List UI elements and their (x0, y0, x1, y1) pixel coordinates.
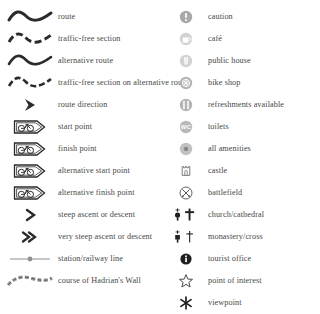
legend-label: castle (208, 166, 227, 176)
legend-item-traffic-free-section: traffic-free section (2, 28, 164, 50)
star-outline-icon (164, 270, 208, 292)
pint-glass-circle-icon (164, 50, 208, 72)
legend-item-point-of-interest: point of interest (164, 270, 318, 292)
cup-circle-icon (164, 28, 208, 50)
legend-label: alternative finish point (58, 188, 135, 198)
legend-item-viewpoint: viewpoint (164, 292, 318, 314)
legend-label: café (208, 34, 222, 44)
chevron-right-filled-icon (2, 94, 58, 116)
legend-label: station/railway line (58, 254, 123, 264)
legend-item-station-railway-line: station/railway line (2, 248, 164, 270)
wc-circle-icon: WC (164, 116, 208, 138)
legend-label: battlefield (208, 188, 242, 198)
legend-item-monastery-cross: monastery/cross (164, 226, 318, 248)
hadrians-wall-icon (2, 270, 58, 292)
legend-item-tourist-office: tourist office (164, 248, 318, 270)
legend-right-column: caution café public house (164, 6, 318, 279)
legend-item-finish-point: finish point (2, 138, 164, 160)
legend-label: public house (208, 56, 251, 66)
legend-label: alternative route (58, 56, 113, 66)
bike-wheel-circle-icon (164, 72, 208, 94)
legend-item-refreshments-available: refreshments available (164, 94, 318, 116)
legend-item-cafe: café (164, 28, 318, 50)
exclamation-circle-icon (164, 6, 208, 28)
wavy-line-dashed-thin-icon (2, 72, 58, 94)
legend-item-toilets: WC toilets (164, 116, 318, 138)
legend-item-steep-ascent-or-descent: steep ascent or descent (2, 204, 164, 226)
legend-label: refreshments available (208, 100, 284, 110)
church-cathedral-icon (164, 204, 208, 226)
castle-icon (164, 160, 208, 182)
legend-label: tourist office (208, 254, 251, 264)
legend-label: route direction (58, 100, 107, 110)
legend-item-church-cathedral: church/cathedral (164, 204, 318, 226)
legend-label: viewpoint (208, 298, 242, 308)
legend-label: monastery/cross (208, 232, 263, 242)
legend-label: start point (58, 122, 92, 132)
wavy-line-solid-icon (2, 6, 58, 28)
legend-item-course-of-hadrians-wall: course of Hadrian's Wall (2, 270, 164, 292)
legend-label: all amenities (208, 144, 251, 154)
legend-item-public-house: public house (164, 50, 318, 72)
legend-item-battlefield: battlefield (164, 182, 318, 204)
double-chevron-icon (2, 226, 58, 248)
legend-item-route: route (2, 6, 164, 28)
legend-label: very steep ascent or descent (58, 232, 152, 242)
monastery-cross-icon (164, 226, 208, 248)
wavy-line-solid-thin-icon (2, 50, 58, 72)
legend-label: bike shop (208, 78, 241, 88)
legend-label: alternative start point (58, 166, 130, 176)
legend-label: finish point (58, 144, 97, 154)
legend-item-bike-shop: bike shop (164, 72, 318, 94)
legend-label: course of Hadrian's Wall (58, 276, 141, 286)
railway-station-line-icon (2, 248, 58, 270)
legend-label: point of interest (208, 276, 262, 286)
legend-item-route-direction: route direction (2, 94, 164, 116)
legend-item-start-point: start point (2, 116, 164, 138)
legend-label: caution (208, 12, 233, 22)
legend-left-column: route traffic-free section alternative r… (2, 6, 164, 279)
legend-item-castle: castle (164, 160, 318, 182)
legend-label: route (58, 12, 75, 22)
svg-text:WC: WC (181, 123, 192, 130)
single-chevron-icon (2, 204, 58, 226)
crossed-swords-circle-icon (164, 182, 208, 204)
legend-item-traffic-free-section-on-alternative-route: traffic-free section on alternative rout… (2, 72, 164, 94)
asterisk-icon (164, 292, 208, 314)
legend-item-alternative-finish-point: alternative finish point (2, 182, 164, 204)
bicycle-banner-icon (2, 138, 58, 160)
legend-item-alternative-start-point: alternative start point (2, 160, 164, 182)
legend-label: toilets (208, 122, 229, 132)
legend-item-very-steep-ascent-or-descent: very steep ascent or descent (2, 226, 164, 248)
wavy-line-dashed-icon (2, 28, 58, 50)
bicycle-banner-icon (2, 160, 58, 182)
bicycle-banner-icon (2, 116, 58, 138)
legend-item-all-amenities: all amenities (164, 138, 318, 160)
cutlery-circle-icon (164, 94, 208, 116)
legend-label: traffic-free section (58, 34, 121, 44)
legend-item-caution: caution (164, 6, 318, 28)
legend-item-alternative-route: alternative route (2, 50, 164, 72)
information-circle-icon (164, 248, 208, 270)
filled-dot-circle-icon (164, 138, 208, 160)
legend-label: steep ascent or descent (58, 210, 135, 220)
bicycle-banner-icon (2, 182, 58, 204)
legend-label: church/cathedral (208, 210, 264, 220)
